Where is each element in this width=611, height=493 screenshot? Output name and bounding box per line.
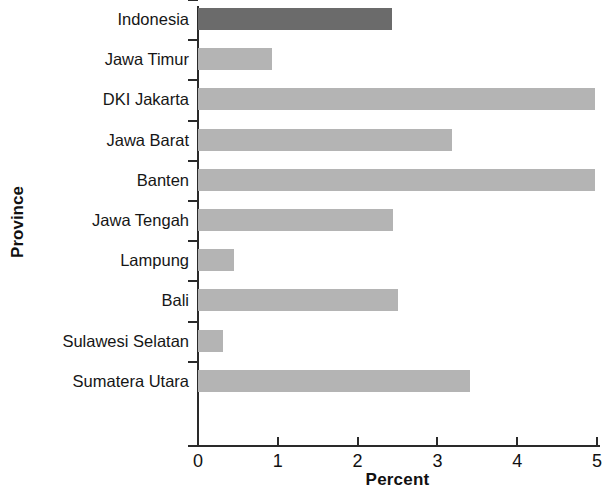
x-axis-tick-label: 0: [178, 450, 218, 472]
bar: [198, 330, 223, 352]
bar: [198, 209, 393, 231]
bar: [198, 129, 452, 151]
y-axis-tick-label: Bali: [29, 290, 189, 310]
x-axis-tick-label: 1: [258, 450, 298, 472]
x-axis-tick-label: 4: [497, 450, 537, 472]
y-axis-tick-label: Jawa Barat: [29, 130, 189, 150]
x-axis-tick: [197, 437, 199, 447]
x-axis-tick-label: 2: [338, 450, 378, 472]
x-axis-tick: [277, 437, 279, 447]
x-axis-tick-label: 5: [577, 450, 611, 472]
bar: [198, 48, 272, 70]
y-axis-tick: [188, 200, 198, 202]
y-axis-tick: [188, 0, 198, 1]
y-axis-tick: [188, 39, 198, 41]
y-axis-tick-label: Lampung: [29, 250, 189, 270]
y-axis-tick: [188, 280, 198, 282]
x-axis-title: Percent: [198, 470, 597, 490]
bar: [198, 88, 595, 110]
plot-area: [198, 8, 597, 445]
y-axis-tick-labels: IndonesiaJawa TimurDKI JakartaJawa Barat…: [30, 8, 195, 445]
y-axis-tick-label: DKI Jakarta: [29, 89, 189, 109]
x-axis-tick: [516, 437, 518, 447]
y-axis-tick: [188, 79, 198, 81]
y-axis-title-label: Province: [3, 0, 33, 445]
bar: [198, 289, 398, 311]
bar: [198, 370, 470, 392]
x-axis-tick: [596, 437, 598, 447]
y-axis-tick-label: Sulawesi Selatan: [29, 331, 189, 351]
x-axis-tick: [357, 437, 359, 447]
x-axis-tick: [436, 437, 438, 447]
x-axis-tick-label: 3: [417, 450, 457, 472]
y-axis-tick: [188, 240, 198, 242]
y-axis-tick-label: Jawa Tengah: [29, 210, 189, 230]
y-axis-tick: [188, 361, 198, 363]
y-axis-tick-label: Indonesia: [29, 9, 189, 29]
bar-chart: Province IndonesiaJawa TimurDKI JakartaJ…: [0, 0, 611, 493]
y-axis-tick-label: Jawa Timur: [29, 49, 189, 69]
y-axis-tick-label: Banten: [29, 170, 189, 190]
bar: [198, 169, 595, 191]
y-axis-tick: [188, 160, 198, 162]
x-axis-line: [188, 445, 600, 447]
bar: [198, 249, 234, 271]
y-axis-tick: [188, 321, 198, 323]
y-axis-title: Province: [2, 0, 32, 445]
y-axis-tick: [188, 120, 198, 122]
y-axis-tick-label: Sumatera Utara: [29, 371, 189, 391]
bar: [198, 8, 392, 30]
